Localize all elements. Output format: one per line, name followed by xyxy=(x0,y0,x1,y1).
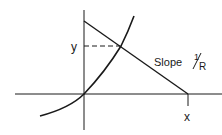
y-label: y xyxy=(71,40,77,54)
diagram-canvas: y x Slope 1 R xyxy=(0,0,222,135)
characteristic-curve xyxy=(40,16,134,116)
x-label: x xyxy=(184,110,190,124)
slope-denominator: R xyxy=(199,61,206,72)
slope-label: Slope xyxy=(154,56,182,68)
